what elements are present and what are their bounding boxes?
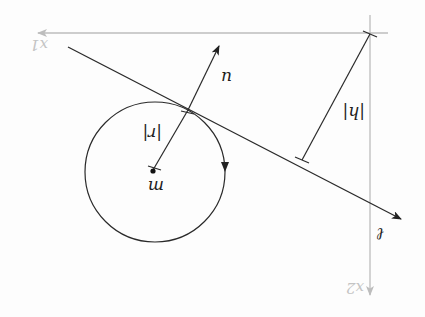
distance-label: |h| bbox=[343, 103, 365, 123]
tangent-line bbox=[68, 47, 401, 219]
circle-direction-arrow-icon bbox=[221, 162, 229, 172]
normal-vector-label: u bbox=[221, 68, 232, 88]
center-point bbox=[150, 168, 155, 173]
normal-vector-u bbox=[188, 46, 219, 110]
tangent-line-label: ℓ bbox=[377, 224, 384, 244]
center-label: m bbox=[148, 177, 164, 197]
distance-segment-h bbox=[302, 34, 370, 160]
diagram-svg: x1 x2 u |r| m |h| ℓ bbox=[0, 0, 425, 317]
radius-label: |r| bbox=[142, 124, 162, 144]
x1-axis-label: x1 bbox=[30, 36, 48, 54]
distance-tick-bottom bbox=[295, 157, 309, 163]
diagram-canvas: x1 x2 u |r| m |h| ℓ bbox=[0, 0, 425, 317]
x2-axis-label: x2 bbox=[346, 279, 364, 297]
